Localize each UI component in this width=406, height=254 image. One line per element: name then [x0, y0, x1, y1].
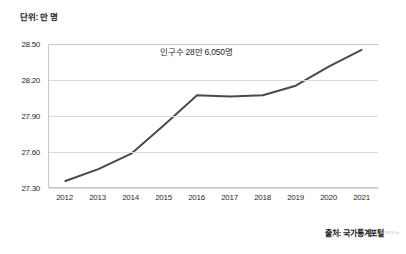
x-axis-tick: 2013 — [89, 193, 106, 202]
y-axis-tick-labels: 28.5028.2027.9027.6027.30 — [0, 44, 44, 188]
x-axis-tick: 2018 — [254, 193, 271, 202]
x-axis-tick: 2016 — [188, 193, 205, 202]
y-axis-tick: 27.90 — [21, 112, 40, 121]
gridline — [49, 80, 378, 81]
y-axis-tick: 27.60 — [21, 148, 40, 157]
watermark-text: KOSIS.kr — [380, 230, 400, 235]
x-axis-tick: 2020 — [320, 193, 337, 202]
x-axis-tick: 2015 — [155, 193, 172, 202]
x-axis-tick: 2019 — [287, 193, 304, 202]
source-caption: 출처: 국가통계포털 — [325, 227, 384, 238]
y-axis-tick: 28.50 — [21, 40, 40, 49]
data-annotation-label: 인구수 28만 6,050명 — [160, 45, 233, 57]
x-axis-tick: 2021 — [353, 193, 370, 202]
unit-label: 단위: 만 명 — [20, 10, 58, 22]
x-axis-tick: 2017 — [221, 193, 238, 202]
x-axis-tick: 2014 — [122, 193, 139, 202]
population-line-chart: 단위: 만 명 28.5028.2027.9027.6027.30 인구수 28… — [0, 0, 406, 254]
gridline — [49, 152, 378, 153]
x-axis-tick-labels: 2012201320142015201620172018201920202021 — [48, 191, 378, 211]
y-axis-tick: 27.30 — [21, 184, 40, 193]
x-axis-tick: 2012 — [56, 193, 73, 202]
y-axis-tick: 28.20 — [21, 76, 40, 85]
gridline — [49, 116, 378, 117]
plot-area — [48, 44, 378, 188]
gridline — [49, 188, 378, 189]
